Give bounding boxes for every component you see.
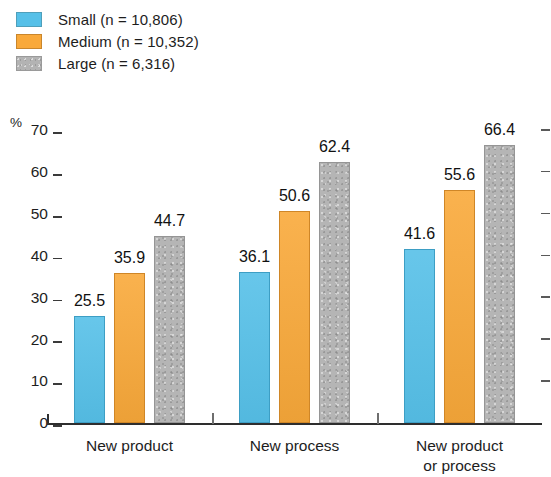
x-axis-category-label-3: New productor process: [377, 436, 542, 476]
x-axis-category-label-2: New process: [212, 436, 377, 456]
bar-value-label: 25.5: [74, 293, 105, 309]
bar-value-label: 41.6: [404, 226, 435, 242]
chart-legend: Small (n = 10,806) Medium (n = 10,352) L…: [16, 8, 276, 74]
bar-medium-3: 55.6: [444, 190, 475, 423]
y-axis-tick-label: 70: [31, 122, 48, 138]
bar-medium-2: 50.6: [279, 211, 310, 423]
bar-fill: [279, 211, 310, 423]
bar-fill: [154, 236, 185, 423]
category-label-line: New process: [212, 436, 377, 456]
y-axis-tick-label: 50: [31, 206, 48, 222]
y-axis-tick-label: 60: [31, 164, 48, 180]
bar-value-label: 62.4: [319, 139, 350, 155]
y-axis-right-tick-20: [541, 338, 550, 340]
legend-label-medium: Medium (n = 10,352): [58, 33, 199, 50]
category-label-line: or process: [377, 456, 542, 476]
legend-swatch-small-icon: [16, 12, 42, 27]
legend-item-large: Large (n = 6,316): [16, 52, 276, 74]
y-axis-tick-label: 40: [31, 248, 48, 264]
x-axis-category-label-1: New product: [47, 436, 212, 456]
bar-chart: Small (n = 10,806) Medium (n = 10,352) L…: [0, 0, 551, 477]
y-axis-right-tick-30: [541, 296, 550, 298]
y-axis-right-tick-40: [541, 255, 550, 257]
bar-fill: [484, 145, 515, 423]
bar-fill: [114, 273, 145, 423]
bar-small-1: 25.5: [74, 316, 105, 423]
y-axis-tick-label: 10: [31, 373, 48, 389]
bar-value-label: 36.1: [239, 249, 270, 265]
legend-label-large: Large (n = 6,316): [58, 55, 175, 72]
x-axis-divider-tick-1: [212, 413, 214, 424]
bar-value-label: 50.6: [279, 188, 310, 204]
bar-value-label: 55.6: [444, 167, 475, 183]
bar-value-label: 44.7: [154, 213, 185, 229]
bar-fill: [239, 272, 270, 423]
legend-label-small: Small (n = 10,806): [58, 11, 183, 28]
bar-value-label: 35.9: [114, 250, 145, 266]
y-axis-right-tick-50: [541, 213, 550, 215]
bar-value-label: 66.4: [484, 122, 515, 138]
y-axis-right-tick-70: [541, 129, 550, 131]
bar-large-2: 62.4: [319, 162, 350, 423]
y-axis-tick-label: 20: [31, 332, 48, 348]
bar-fill: [404, 249, 435, 423]
legend-swatch-medium-icon: [16, 34, 42, 49]
bar-large-3: 66.4: [484, 145, 515, 423]
bar-fill: [444, 190, 475, 423]
bar-large-1: 44.7: [154, 236, 185, 423]
category-label-line: New product: [377, 436, 542, 456]
x-axis-line: [47, 423, 542, 425]
plot-area: 25.535.944.736.150.662.441.655.666.4: [47, 130, 542, 423]
bar-fill: [74, 316, 105, 423]
x-axis-divider-tick-2: [377, 413, 379, 424]
y-axis-right-tick-60: [541, 171, 550, 173]
category-label-line: New product: [47, 436, 212, 456]
legend-swatch-large-icon: [16, 56, 42, 71]
bar-fill: [319, 162, 350, 423]
y-axis-right-tick-10: [541, 380, 550, 382]
legend-item-medium: Medium (n = 10,352): [16, 30, 276, 52]
legend-item-small: Small (n = 10,806): [16, 8, 276, 30]
y-axis-tick-dash-icon: [53, 425, 62, 427]
bar-small-2: 36.1: [239, 272, 270, 423]
bar-small-3: 41.6: [404, 249, 435, 423]
bar-medium-1: 35.9: [114, 273, 145, 423]
y-axis-tick-label: 30: [31, 290, 48, 306]
